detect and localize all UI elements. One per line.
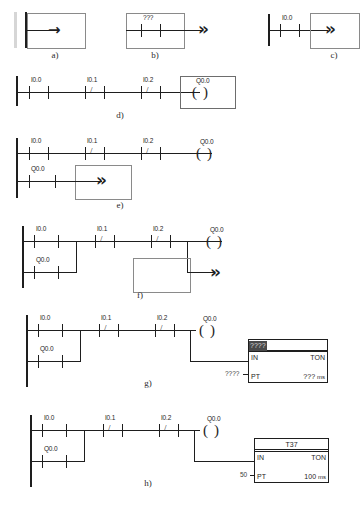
coil-open-paren: ( [192, 84, 203, 100]
contact-tag-i01-e: I0.1 [87, 137, 97, 144]
contact-tag-i01-f: I0.1 [97, 225, 107, 232]
contact-i01-left-d[interactable] [85, 86, 86, 99]
nc-slash-i02-d: / [146, 86, 149, 95]
rail-shadow-a [14, 12, 17, 48]
contact-q00-right-g[interactable] [62, 355, 63, 368]
contact-i00-left-d[interactable] [29, 86, 30, 99]
timer-pt-label-g: PT [251, 371, 260, 382]
timer-block-g[interactable]: ???? IN TON PT ??? ms [248, 339, 328, 383]
contact-tag-i02-g: I0.2 [157, 314, 167, 321]
contact-i02-left-g[interactable] [155, 324, 156, 337]
contact-i02-left-e[interactable] [141, 147, 142, 160]
wire-to-timer-h [194, 461, 255, 462]
timer-pt-input-h[interactable]: 50 [240, 471, 247, 478]
contact-tag-i00-d: I0.0 [31, 76, 41, 83]
coil-q00-d[interactable]: () [192, 85, 214, 100]
coil-q00-e[interactable]: () [196, 146, 218, 161]
coil-close-paren: ) [217, 233, 228, 249]
wire-branch-f [22, 272, 77, 273]
timer-block-h[interactable]: T37 IN TON PT 100 ms [254, 438, 329, 483]
wire-to-timer-g [190, 361, 249, 362]
coil-tag-q00-d: Q0.0 [196, 77, 209, 84]
contact-i00-left-g[interactable] [38, 324, 39, 337]
nc-slash-i01-h: / [108, 424, 111, 433]
timer-in-row-h: IN TON [255, 451, 328, 463]
contact-q00-right-f[interactable] [58, 266, 59, 279]
timer-preset-value-g: ??? [303, 373, 315, 380]
timer-name-header-g[interactable]: ???? [249, 340, 327, 351]
timer-name-header-h[interactable]: T37 [255, 439, 328, 450]
timer-preset-h: 100 ms [304, 471, 326, 483]
caption-b: b) [126, 50, 184, 60]
coil-close-paren: ) [210, 322, 221, 338]
contact-q00-left-h[interactable] [42, 455, 43, 468]
contact-q00-left-f[interactable] [34, 266, 35, 279]
caption-f: f) [120, 290, 160, 300]
contact-i00-left-f[interactable] [34, 235, 35, 248]
contact-i01-right-d[interactable] [104, 86, 105, 99]
contact-i01-left-h[interactable] [103, 424, 104, 437]
contact-i02-right-g[interactable] [174, 324, 175, 337]
contact-i00-right-d[interactable] [48, 86, 49, 99]
nc-slash-i01-g: / [104, 324, 107, 333]
contact-tag-i00-e: I0.0 [31, 137, 41, 144]
contact-i01-left-g[interactable] [99, 324, 100, 337]
contact-i02-right-h[interactable] [178, 424, 179, 437]
contact-q00-left-e[interactable] [29, 175, 30, 188]
contact-bar-left-c[interactable] [280, 24, 281, 37]
coil-tag-q00-f: Q0.0 [210, 226, 223, 233]
branch-riser-g [80, 330, 81, 362]
contact-i02-right-e[interactable] [160, 147, 161, 160]
contact-tag-q00-g: Q0.0 [40, 345, 53, 352]
contact-bar-right-b[interactable] [160, 24, 161, 37]
contact-tag-c: I0.0 [282, 14, 292, 21]
contact-bar-right-c[interactable] [299, 24, 300, 37]
power-rail-d [16, 76, 18, 106]
contact-i02-left-f[interactable] [151, 235, 152, 248]
wire-b [126, 30, 203, 31]
contact-i00-right-e[interactable] [48, 147, 49, 160]
contact-i02-right-f[interactable] [170, 235, 171, 248]
contact-q00-right-h[interactable] [66, 455, 67, 468]
coil-q00-f[interactable]: () [206, 234, 228, 249]
contact-i01-left-f[interactable] [95, 235, 96, 248]
coil-tag-q00-g: Q0.0 [203, 315, 216, 322]
insert-arrow-icon-a: → [48, 23, 61, 38]
contact-i00-right-f[interactable] [58, 235, 59, 248]
coil-q00-g[interactable]: () [199, 323, 221, 338]
contact-i01-right-h[interactable] [122, 424, 123, 437]
contact-i02-left-h[interactable] [159, 424, 160, 437]
nc-slash-i01-f: / [100, 235, 103, 244]
wire-branch-h [30, 461, 85, 462]
timer-pt-input-g[interactable]: ???? [225, 370, 239, 377]
wire-pt-h [250, 475, 255, 476]
contact-i01-right-g[interactable] [118, 324, 119, 337]
contact-bar-left-b[interactable] [141, 24, 142, 37]
timer-pt-row-g: PT ??? ms [249, 371, 327, 382]
contact-i01-right-e[interactable] [104, 147, 105, 160]
contact-i02-right-d[interactable] [160, 86, 161, 99]
contact-i00-left-e[interactable] [29, 147, 30, 160]
contact-tag-q00-h: Q0.0 [44, 445, 57, 452]
insert-arrow-icon-b: » [198, 21, 209, 38]
wire-d [16, 92, 200, 93]
contact-i01-left-e[interactable] [85, 147, 86, 160]
contact-i00-left-h[interactable] [42, 424, 43, 437]
coil-open-paren: ( [203, 422, 214, 438]
coil-tag-q00-h: Q0.0 [207, 415, 220, 422]
insert-arrow-icon-f: » [210, 264, 221, 281]
selection-box-f[interactable] [133, 258, 191, 293]
timer-preset-value-h: 100 [304, 473, 316, 480]
contact-i01-right-f[interactable] [114, 235, 115, 248]
contact-i00-right-h[interactable] [66, 424, 67, 437]
caption-c: c) [305, 50, 363, 60]
nc-slash-i02-e: / [146, 147, 149, 156]
timer-name-value-g[interactable]: ???? [249, 341, 267, 351]
contact-q00-left-g[interactable] [38, 355, 39, 368]
contact-i00-right-g[interactable] [62, 324, 63, 337]
contact-tag-i01-d: I0.1 [87, 76, 97, 83]
contact-i02-left-d[interactable] [141, 86, 142, 99]
coil-q00-h[interactable]: () [203, 423, 225, 438]
caption-a: a) [26, 50, 84, 60]
coil-close-paren: ) [203, 84, 214, 100]
